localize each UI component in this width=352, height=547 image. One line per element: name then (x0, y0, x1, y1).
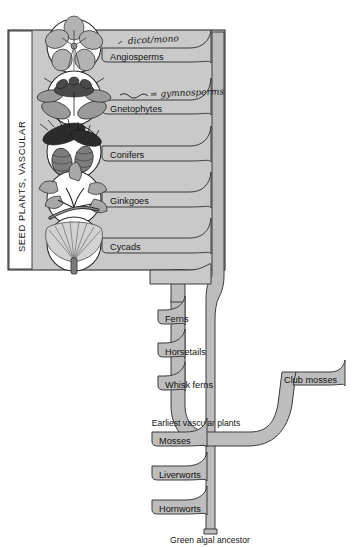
branch-label-ferns: Ferns (165, 314, 189, 324)
seed-plants-vascular-label: SEED PLANTS, VASCULAR (16, 121, 27, 252)
trunk-base-cap (204, 529, 217, 534)
branch-label-cycads: Cycads (110, 242, 141, 252)
branch-label-liverworts: Liverworts (159, 470, 201, 480)
branch-hornworts: Hornworts (152, 486, 207, 515)
node-label-green-algal-ancestor: Green algal ancestor (170, 535, 250, 545)
branch-label-club-mosses: Club mosses (284, 375, 338, 385)
branch-liverworts: Liverworts (152, 452, 207, 481)
phylogeny-svg: SEED PLANTS, VASCULAR Angiosperms Gnetop… (0, 0, 352, 547)
branch-label-whisk-ferns: Whisk ferns (165, 380, 213, 390)
node-label-earliest-vascular-plants: Earliest vascular plants (152, 418, 240, 428)
branch-label-mosses: Mosses (159, 436, 191, 446)
branch-label-ginkgoes: Ginkgoes (110, 196, 149, 206)
branch-label-gnetophytes: Gnetophytes (110, 104, 163, 114)
branch-label-angiosperms: Angiosperms (110, 52, 164, 62)
plant-phylogeny-figure: SEED PLANTS, VASCULAR Angiosperms Gnetop… (0, 0, 352, 547)
branch-label-conifers: Conifers (110, 150, 145, 160)
branch-whisk-ferns: Whisk ferns (158, 362, 213, 391)
branch-label-horsetails: Horsetails (165, 347, 206, 357)
branch-label-hornworts: Hornworts (159, 504, 201, 514)
